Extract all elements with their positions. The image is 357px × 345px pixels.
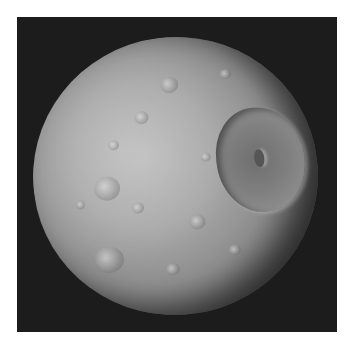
crater bbox=[159, 76, 179, 94]
crater bbox=[93, 175, 122, 202]
crater bbox=[76, 200, 86, 210]
crater bbox=[228, 244, 241, 257]
moon bbox=[17, 19, 336, 332]
crater bbox=[219, 68, 232, 80]
crater bbox=[134, 110, 150, 125]
crater-central-peak bbox=[253, 149, 265, 168]
crater bbox=[200, 152, 211, 162]
crater bbox=[107, 140, 119, 151]
crater bbox=[165, 262, 181, 276]
large-crater bbox=[210, 101, 312, 217]
photo-frame bbox=[17, 17, 337, 332]
crater bbox=[189, 213, 207, 230]
crater bbox=[131, 202, 144, 215]
crater bbox=[92, 245, 125, 275]
